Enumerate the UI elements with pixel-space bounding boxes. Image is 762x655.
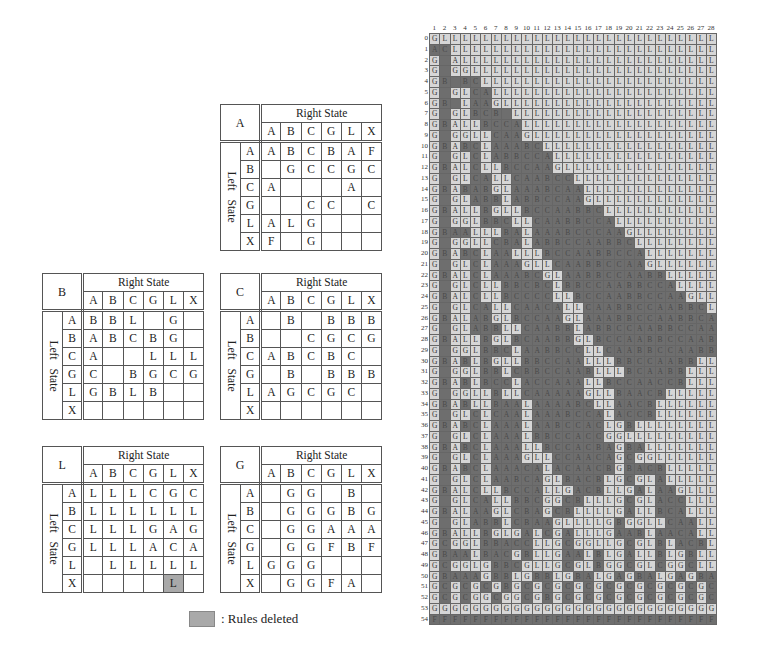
grid-cell: L (676, 185, 686, 196)
grid-cell: B (656, 271, 666, 282)
grid-cell: L (574, 507, 584, 518)
rule-cell (261, 161, 281, 179)
grid-cell: L (697, 292, 707, 303)
grid-cell: C (584, 582, 594, 593)
grid-cell: L (584, 56, 594, 67)
grid-cell: L (707, 529, 717, 540)
right-state-header: Right State (261, 447, 382, 465)
grid-cell: G (430, 228, 440, 239)
grid-cell: L (492, 66, 502, 77)
grid-cell: L (461, 206, 471, 217)
grid-cell: G (563, 314, 573, 325)
grid-cell: G (451, 475, 461, 486)
grid-cell: G (553, 561, 563, 572)
grid-cell: A (543, 518, 553, 529)
grid-cell: L (471, 131, 481, 142)
row-header: L (63, 557, 83, 575)
grid-cell: L (563, 66, 573, 77)
grid-cell: A (635, 335, 645, 346)
grid-cell: G (686, 572, 696, 583)
grid-cell: L (522, 400, 532, 411)
grid-cell: L (625, 109, 635, 120)
grid-cell: L (707, 217, 717, 228)
grid-cell: L (584, 496, 594, 507)
grid-cell: L (707, 357, 717, 368)
grid-cell: B (481, 346, 491, 357)
grid-cell: B (574, 217, 584, 228)
grid-cell: B (543, 443, 553, 454)
row-numbers: 0123456789101112131415161718192021222324… (416, 33, 429, 624)
grid-cell: B (522, 142, 532, 153)
column-header: L (341, 123, 361, 142)
grid-cell: A (492, 152, 502, 163)
grid-cell (440, 346, 450, 357)
grid-cell: G (430, 66, 440, 77)
rule-cell: G (281, 539, 301, 557)
grid-cell: L (676, 443, 686, 454)
grid-cell: L (492, 77, 502, 88)
grid-cell: L (584, 346, 594, 357)
grid-cell: L (563, 292, 573, 303)
grid-cell: B (512, 496, 522, 507)
grid-cell: B (440, 206, 450, 217)
grid-cell: L (666, 152, 676, 163)
grid-cell: L (471, 539, 481, 550)
grid-cell: L (615, 56, 625, 67)
grid-cell: B (563, 281, 573, 292)
grid-cell: A (574, 486, 584, 497)
column-header: C (123, 292, 143, 311)
grid-cell: G (430, 195, 440, 206)
grid-cell: L (481, 486, 491, 497)
grid-cell: G (430, 152, 440, 163)
rule-cell: L (103, 484, 123, 503)
grid-cell: L (697, 281, 707, 292)
grid-cell: L (666, 131, 676, 142)
grid-cell: L (686, 238, 696, 249)
grid-cell: L (604, 77, 614, 88)
grid-cell: L (461, 88, 471, 99)
grid-cell: C (645, 303, 655, 314)
grid-cell: L (666, 453, 676, 464)
grid-cell: B (461, 77, 471, 88)
grid-cell: L (461, 518, 471, 529)
rule-cell (281, 402, 301, 420)
grid-cell: C (522, 539, 532, 550)
row-number: 36 (416, 420, 429, 431)
grid-cell: L (635, 238, 645, 249)
grid-cell: L (604, 34, 614, 45)
grid-cell: L (512, 378, 522, 389)
grid-cell: L (635, 45, 645, 56)
grid-cell: L (543, 56, 553, 67)
grid-cell: G (430, 529, 440, 540)
grid-cell: A (635, 443, 645, 454)
grid-cell: G (533, 582, 543, 593)
grid-cell: L (645, 249, 655, 260)
grid-cell: B (563, 324, 573, 335)
rule-cell (103, 348, 123, 366)
grid-cell: A (615, 410, 625, 421)
grid-cell: B (676, 367, 686, 378)
row-header: X (63, 402, 83, 420)
grid-cell: L (645, 109, 655, 120)
grid-cell: L (666, 34, 676, 45)
grid-cell: A (502, 421, 512, 432)
grid-cell: L (635, 163, 645, 174)
grid-cell: C (471, 152, 481, 163)
grid-cell: B (543, 593, 553, 604)
grid-cell: L (512, 249, 522, 260)
rule-cell: A (341, 521, 361, 539)
table-state-label: C (221, 274, 261, 311)
row-number: 47 (416, 538, 429, 549)
grid-cell: C (471, 281, 481, 292)
grid-cell: G (635, 593, 645, 604)
grid-cell: B (502, 152, 512, 163)
grid-cell: A (563, 185, 573, 196)
grid-cell: C (471, 142, 481, 153)
grid-cell: L (574, 77, 584, 88)
left-state-label: Left State (47, 513, 59, 564)
grid-cell: L (502, 77, 512, 88)
row-number: 28 (416, 334, 429, 345)
grid-cell: B (502, 281, 512, 292)
grid-cell: C (481, 582, 491, 593)
rule-cell: F (361, 539, 381, 557)
